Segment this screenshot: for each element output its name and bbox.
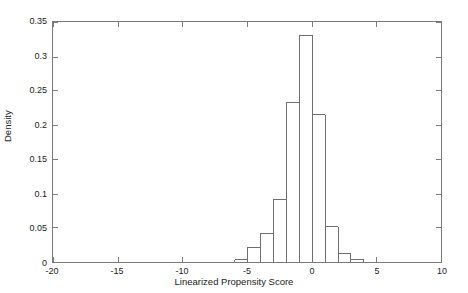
histogram-bar <box>351 260 364 262</box>
histogram-bar <box>325 227 338 262</box>
histogram-bar <box>312 115 325 262</box>
y-tick-label: 0.05 <box>20 223 47 234</box>
y-tick-label: 0 <box>20 258 47 269</box>
histogram-bar <box>235 260 248 262</box>
histogram-bar <box>247 248 260 262</box>
y-tick-label: 0.15 <box>20 154 47 165</box>
y-tick-label: 0.35 <box>20 16 47 27</box>
y-tick-label: 0.25 <box>20 85 47 96</box>
plot-area <box>52 21 442 263</box>
y-axis-title: Density <box>2 110 13 142</box>
y-tick-label: 0.2 <box>20 119 47 130</box>
histogram-bars-layer <box>53 22 441 262</box>
histogram-bar <box>286 103 299 262</box>
histogram-bar <box>299 35 312 262</box>
histogram-bar <box>273 199 286 262</box>
y-tick-label: 0.3 <box>20 50 47 61</box>
y-tick-label: 0.1 <box>20 188 47 199</box>
histogram-figure: -20-15-10-50510 00.050.10.150.20.250.30.… <box>0 0 468 293</box>
x-axis-title: Linearized Propensity Score <box>0 276 468 287</box>
histogram-bar <box>338 254 351 262</box>
histogram-bar <box>260 234 273 262</box>
